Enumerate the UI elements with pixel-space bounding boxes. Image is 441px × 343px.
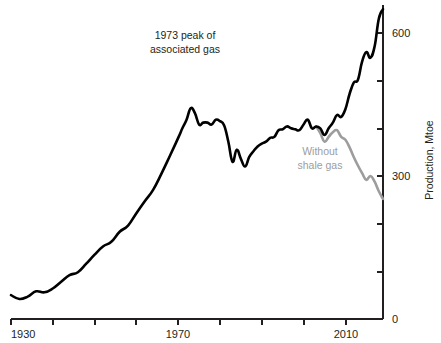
plot-background — [0, 0, 441, 343]
line-chart-plot: 600 300 0 1930 1970 2010 Production, Mto… — [0, 0, 441, 343]
x-axis-label-1930: 1930 — [11, 328, 35, 340]
without-shale-annotation-line2: shale gas — [298, 159, 343, 171]
chart-container: 600 300 0 1930 1970 2010 Production, Mto… — [0, 0, 441, 343]
y-axis-title: Production, Mtoe — [423, 120, 435, 200]
x-axis-label-2010: 2010 — [334, 328, 358, 340]
without-shale-annotation-line1: Without — [302, 145, 338, 157]
peak-annotation-line1: 1973 peak of — [155, 29, 216, 41]
peak-annotation-line2: associated gas — [150, 43, 220, 55]
y-axis-label-0: 0 — [392, 313, 398, 325]
y-axis-label-600: 600 — [392, 27, 410, 39]
x-axis-label-1970: 1970 — [166, 328, 190, 340]
y-axis-label-300: 300 — [392, 170, 410, 182]
